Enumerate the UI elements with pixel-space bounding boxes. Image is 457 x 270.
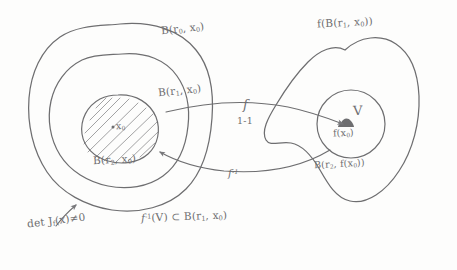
forward-map-sublabel: 1-1 [237,116,253,126]
inverse-map-arrow [160,150,330,172]
image-blob-outline [264,38,419,202]
outer-ball-outline [29,23,213,211]
forward-map-label: f [243,98,248,111]
image-point-label: f(x0) [333,127,354,139]
forward-map-arrow [166,103,343,124]
center-point-label: x0 [116,121,126,132]
diagram-canvas: B(r0, x0) B(r1, x0) B(r2, x0) x0 f(B(r1,… [0,0,457,270]
center-point-marker [112,126,115,129]
inverse-map-label: f-1 [228,168,238,179]
inner-ball-label: B(r2, x0) [93,153,137,167]
sketch-drawing-layer [0,0,457,270]
neighborhood-v-label: V [353,104,363,117]
